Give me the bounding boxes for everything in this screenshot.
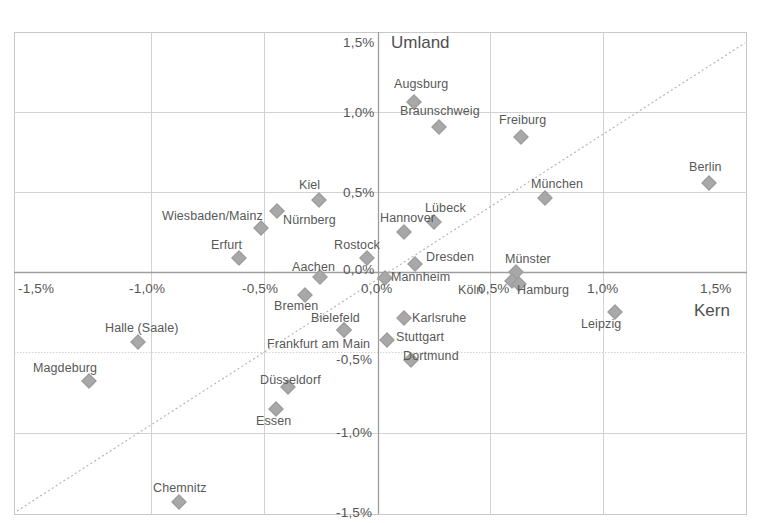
y-tick-label: 0,0% [343, 262, 375, 277]
y-tick-label: -0,5% [336, 352, 372, 367]
y-tick-label: 1,0% [343, 105, 375, 120]
x-axis-title: Kern [694, 301, 730, 321]
y-tick-label: 0,5% [343, 185, 375, 200]
scatter-chart: AugsburgBraunschweigFreiburgBerlinKielMü… [0, 0, 761, 523]
y-tick-label: -1,0% [336, 425, 372, 440]
y-axis-tick-labels: 1,5%1,0%0,5%0,0%-0,5%-1,0%-1,5% [0, 0, 761, 523]
y-axis-title: Umland [391, 33, 450, 53]
y-tick-label: -1,5% [336, 505, 372, 520]
y-tick-label: 1,5% [343, 35, 375, 50]
